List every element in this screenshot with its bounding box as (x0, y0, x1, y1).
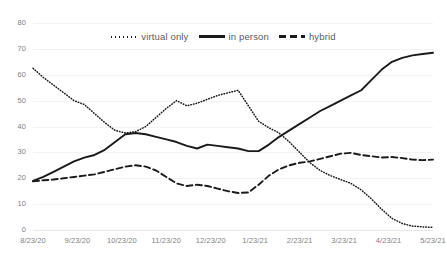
plot-area (33, 23, 433, 230)
gridline (33, 23, 433, 24)
y-axis-tick-label: 40 (2, 122, 26, 131)
y-axis-tick-label: 0 (2, 225, 26, 234)
line-chart: 01020304050607080 8/23/209/23/2010/23/20… (0, 0, 447, 260)
y-axis-tick-label: 80 (2, 18, 26, 27)
y-axis-tick-label: 50 (2, 96, 26, 105)
gridline (33, 49, 433, 50)
x-axis-tick-label: 5/23/21 (405, 236, 447, 245)
gridline (33, 127, 433, 128)
y-axis-tick-label: 70 (2, 44, 26, 53)
gridline (33, 230, 433, 231)
gridline (33, 204, 433, 205)
gridline (33, 152, 433, 153)
gridline (33, 101, 433, 102)
gridline (33, 178, 433, 179)
y-axis-tick-label: 10 (2, 199, 26, 208)
y-axis-tick-label: 30 (2, 147, 26, 156)
gridline (33, 75, 433, 76)
y-axis-tick-label: 20 (2, 173, 26, 182)
y-axis-tick-label: 60 (2, 70, 26, 79)
